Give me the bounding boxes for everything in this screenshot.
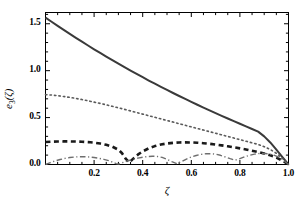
x-tick-label: 0.4 [129,168,157,178]
x-axis-title: ζ [147,184,187,196]
y-tick-label: 1.5 [13,17,41,27]
y-axis-title-subscript: 3 [8,100,17,104]
y-tick-label: 0.0 [13,158,41,168]
y-axis-title-argument: (ζ) [2,88,14,100]
x-tick-label: 0.6 [177,168,205,178]
x-tick-label: 1.0 [275,168,297,178]
y-tick-label: 1.0 [13,64,41,74]
y-axis-title: e3(ζ) [2,88,17,108]
y-tick-label: 0.5 [13,111,41,121]
figure-container: 0.20.40.60.81.00.00.51.01.5 ζ e3(ζ) [0,0,296,204]
x-tick-label: 0.8 [226,168,254,178]
x-tick-label: 0.2 [80,168,108,178]
y-axis-title-symbol: e [2,104,14,109]
